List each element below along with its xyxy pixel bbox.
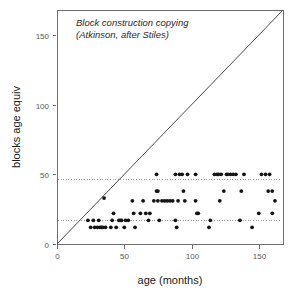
x-tick-label-100: 100 [186, 252, 200, 261]
data-point [102, 196, 106, 200]
data-point [180, 172, 184, 176]
data-point [266, 189, 270, 193]
data-point [270, 189, 274, 193]
data-point [126, 218, 130, 222]
data-point [186, 172, 190, 176]
data-point [176, 199, 180, 203]
data-point [156, 199, 160, 203]
data-point [270, 211, 274, 215]
data-point [112, 211, 116, 215]
y-tick-label-100: 100 [36, 102, 50, 111]
data-point [110, 218, 114, 222]
y-tick-label-150: 150 [36, 32, 50, 41]
y-tick-label-50: 50 [40, 171, 49, 180]
data-point [208, 218, 212, 222]
y-axis-title: blocks age equiv [10, 86, 22, 168]
data-point [122, 225, 126, 229]
data-point [182, 189, 186, 193]
figure-container: 050100150050100150 Block construction co… [0, 0, 301, 300]
data-point [207, 225, 211, 229]
data-point [173, 218, 177, 222]
data-point [268, 172, 272, 176]
data-point [147, 218, 151, 222]
data-point [218, 199, 222, 203]
x-tick-label-50: 50 [120, 252, 129, 261]
data-point [120, 218, 124, 222]
data-point [250, 225, 254, 229]
data-point [141, 199, 145, 203]
data-point [139, 211, 143, 215]
data-point [194, 199, 198, 203]
data-point [175, 225, 179, 229]
data-point [104, 225, 108, 229]
data-point [239, 189, 243, 193]
x-axis-title: age (months) [138, 274, 203, 286]
x-tick-label-0: 0 [55, 252, 60, 261]
data-point [130, 199, 134, 203]
annotation-line-1: Block construction copying [76, 17, 189, 28]
data-point [264, 172, 268, 176]
data-point [171, 199, 175, 203]
data-point [89, 225, 93, 229]
x-tick-label-150: 150 [253, 252, 267, 261]
data-point [91, 218, 95, 222]
data-point [273, 199, 277, 203]
data-point [155, 172, 159, 176]
data-point [219, 172, 223, 176]
data-point [257, 211, 261, 215]
data-point [97, 218, 101, 222]
annotation-line-2: (Atkinson, after Stiles) [76, 29, 169, 40]
scatter-plot: 050100150050100150 Block construction co… [0, 0, 301, 300]
data-point [133, 225, 137, 229]
data-point [144, 211, 148, 215]
data-point [194, 172, 198, 176]
data-point [234, 172, 238, 176]
data-point [152, 199, 156, 203]
data-point [109, 225, 113, 229]
data-point [196, 211, 200, 215]
data-point [157, 218, 161, 222]
data-point [173, 172, 177, 176]
data-point [242, 172, 246, 176]
data-point [238, 218, 242, 222]
data-point [183, 199, 187, 203]
data-point [148, 211, 152, 215]
data-point [260, 172, 264, 176]
data-point [86, 218, 90, 222]
data-point [222, 189, 226, 193]
data-point [114, 225, 118, 229]
y-tick-label-0: 0 [45, 241, 50, 250]
data-point [156, 189, 160, 193]
data-point [132, 211, 136, 215]
